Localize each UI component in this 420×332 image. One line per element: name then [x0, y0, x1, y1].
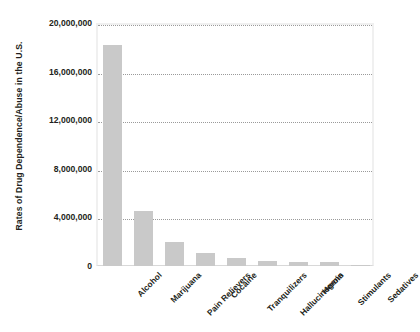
bar-alcohol: [103, 45, 122, 266]
bar-marijuana: [134, 211, 153, 266]
x-tick-label-alcohol: Alcohol: [135, 270, 164, 299]
bars-layer: [96, 23, 374, 266]
x-axis-tick-labels: Alcohol Marijuana Pain Relievers Cocaine…: [96, 266, 374, 332]
y-tick-label: 20,000,000: [12, 18, 92, 28]
y-axis-title: Rates of Drug Dependence/Abuse in the U.…: [10, 0, 28, 272]
bar-tranquilizers: [227, 258, 246, 267]
y-tick-label: 4,000,000: [12, 212, 92, 222]
y-tick-label: 12,000,000: [12, 115, 92, 125]
bar-pain-relievers: [165, 242, 184, 266]
x-tick-label-stimulants: Stimulants: [356, 270, 393, 307]
bar-cocaine: [196, 253, 215, 266]
y-tick-label: 16,000,000: [12, 67, 92, 77]
x-tick-label-marijuana: Marijuana: [168, 270, 203, 305]
y-tick-label: 8,000,000: [12, 164, 92, 174]
y-tick-label: 0: [12, 261, 92, 271]
